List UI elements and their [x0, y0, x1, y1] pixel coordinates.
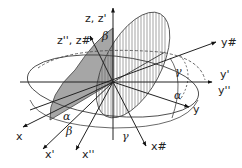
label-beta-bottom: β — [65, 125, 72, 138]
label-gamma-right: γ — [175, 65, 182, 78]
label-y: y — [193, 103, 200, 116]
hatched-ellipse — [81, 0, 185, 168]
euler-angles-diagram: z, z' z'', z# y# y' y'' y x x' x'' x# β … — [0, 0, 242, 168]
label-beta-top: β — [101, 30, 108, 43]
label-z2: z'', z# — [57, 34, 91, 47]
label-x: x — [16, 130, 23, 143]
label-alpha-right: α — [174, 89, 182, 102]
label-x-prime: x' — [45, 148, 55, 161]
label-x-double: x'' — [82, 148, 95, 161]
label-gamma-bottom: γ — [122, 130, 129, 143]
label-y-double: y'' — [218, 84, 231, 97]
diagram-canvas: z, z' z'', z# y# y' y'' y x x' x'' x# β … — [0, 0, 242, 168]
label-y-hash: y# — [221, 36, 237, 49]
label-z: z, z' — [85, 12, 107, 25]
label-alpha-left: α — [63, 110, 71, 123]
label-y-prime: y' — [220, 68, 230, 81]
label-x-hash: x# — [151, 140, 167, 153]
